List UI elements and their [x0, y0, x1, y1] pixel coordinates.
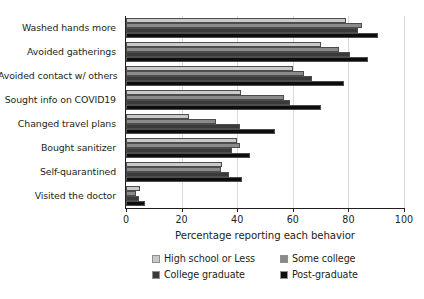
x-axis-title: Percentage reporting each behavior — [126, 230, 404, 241]
x-tick-label: 20 — [175, 214, 187, 225]
x-tick-label: 60 — [287, 214, 299, 225]
legend-label: Post-graduate — [292, 269, 358, 280]
legend-label: High school or Less — [164, 253, 255, 264]
x-tick-mark — [126, 208, 127, 212]
x-tick-mark — [293, 208, 294, 212]
bar — [126, 153, 250, 158]
y-axis-label: Self-quarantined — [0, 167, 116, 177]
legend-label: Some college — [292, 253, 355, 264]
bar — [126, 81, 344, 86]
y-axis-label: Washed hands more — [0, 23, 116, 33]
legend-swatch-icon — [280, 271, 288, 279]
chart-legend: High school or LessSome collegeCollege g… — [152, 253, 402, 293]
x-tick-mark — [237, 208, 238, 212]
gridline — [404, 16, 405, 208]
x-tick-label: 40 — [231, 214, 243, 225]
y-axis-label: Sought info on COVID19 — [0, 95, 116, 105]
axes-and-bars: 020406080100 — [126, 16, 404, 208]
x-tick-label: 100 — [395, 214, 413, 225]
bar — [126, 105, 321, 110]
bar — [126, 201, 145, 206]
bar — [126, 57, 368, 62]
legend-swatch-icon — [152, 271, 160, 279]
y-axis-label: Visited the doctor — [0, 191, 116, 201]
x-tick-label: 80 — [342, 214, 354, 225]
x-tick-mark — [404, 208, 405, 212]
x-tick-label: 0 — [123, 214, 129, 225]
gridline — [348, 16, 349, 208]
legend-item[interactable]: High school or Less — [152, 253, 255, 264]
x-axis-line — [125, 208, 404, 209]
bar — [126, 129, 275, 134]
y-axis-label: Avoided contact w/ others — [0, 71, 116, 81]
y-axis-label: Avoided gatherings — [0, 47, 116, 57]
legend-swatch-icon — [152, 255, 160, 263]
x-tick-mark — [348, 208, 349, 212]
plot-area: Washed hands moreAvoided gatheringsAvoid… — [0, 0, 424, 232]
legend-swatch-icon — [280, 255, 288, 263]
bar — [126, 177, 242, 182]
x-tick-mark — [182, 208, 183, 212]
legend-item[interactable]: Post-graduate — [280, 269, 358, 280]
bar-chart: Washed hands moreAvoided gatheringsAvoid… — [0, 0, 424, 299]
bar — [126, 33, 378, 38]
legend-item[interactable]: Some college — [280, 253, 355, 264]
y-axis-label: Bought sanitizer — [0, 143, 116, 153]
y-axis-label: Changed travel plans — [0, 119, 116, 129]
legend-label: College graduate — [164, 269, 245, 280]
legend-item[interactable]: College graduate — [152, 269, 245, 280]
y-axis-category-labels: Washed hands moreAvoided gatheringsAvoid… — [0, 16, 120, 208]
